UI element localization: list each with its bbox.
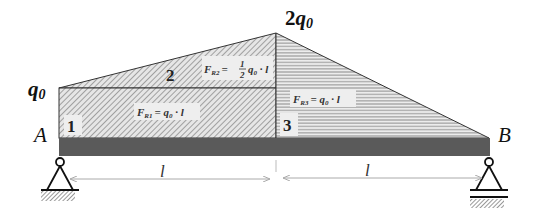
load-region-3 (276, 33, 489, 138)
span-right-label: l (365, 161, 370, 180)
svg-text:1: 1 (240, 59, 245, 69)
force-fr2-label: FR2= 1 2 q0 · l (202, 56, 273, 80)
force-fr1-label: FR1= q0 · l (134, 103, 200, 120)
point-a-label: A (32, 123, 47, 147)
beam-load-diagram: 1 2 3 FR1= q0 · l FR2= 1 2 q0 · l FR3= q… (0, 0, 539, 220)
load-q0-label: q0 (28, 77, 46, 102)
roller-support-b-icon (470, 158, 508, 208)
beam (59, 138, 490, 156)
svg-text:FR3= q0 · l: FR3= q0 · l (292, 93, 341, 107)
point-b-label: B (498, 123, 511, 147)
region-2-label: 2 (166, 66, 175, 85)
load-2q0-label: 2q0 (285, 6, 313, 31)
svg-text:q0 · l: q0 · l (248, 63, 269, 77)
region-1-label: 1 (67, 117, 76, 136)
force-fr3-label: FR3= q0 · l (290, 90, 356, 107)
svg-text:2: 2 (239, 70, 245, 80)
span-left-label: l (160, 162, 165, 181)
region-3-label: 3 (283, 116, 292, 135)
svg-text:FR1= q0 · l: FR1= q0 · l (136, 106, 185, 120)
